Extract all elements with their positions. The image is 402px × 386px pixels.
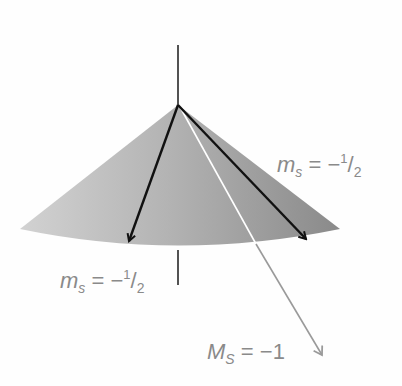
label-sign: − bbox=[327, 152, 340, 177]
spin-cone-diagram: ms = −1/2 ms = −1/2 MS = −1 bbox=[0, 0, 402, 386]
label-subscript: s bbox=[78, 280, 85, 296]
label-denominator: 2 bbox=[354, 164, 362, 180]
label-ms-left: ms = −1/2 bbox=[60, 268, 144, 295]
label-symbol: m bbox=[277, 152, 295, 177]
label-denominator: 2 bbox=[137, 280, 145, 296]
label-numerator: 1 bbox=[340, 151, 347, 166]
label-equals: = bbox=[241, 339, 254, 364]
label-value: −1 bbox=[260, 339, 285, 364]
label-subscript: s bbox=[295, 164, 302, 180]
label-MS-total: MS = −1 bbox=[207, 341, 285, 366]
diagram-canvas bbox=[0, 0, 402, 386]
label-symbol: M bbox=[207, 339, 225, 364]
label-numerator: 1 bbox=[123, 267, 130, 282]
label-equals: = bbox=[308, 152, 321, 177]
label-ms-right: ms = −1/2 bbox=[277, 152, 361, 179]
label-sign: − bbox=[110, 268, 123, 293]
label-subscript: S bbox=[225, 351, 234, 367]
label-equals: = bbox=[91, 268, 104, 293]
label-symbol: m bbox=[60, 268, 78, 293]
